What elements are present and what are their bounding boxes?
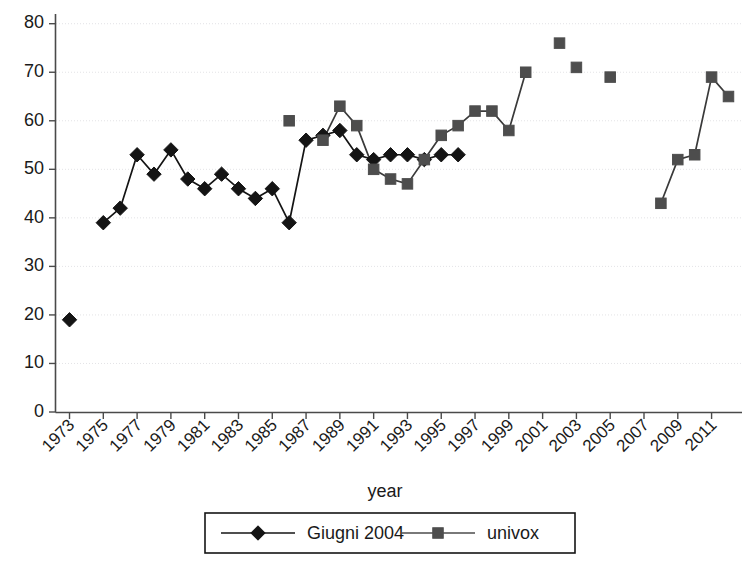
data-point-square	[433, 528, 444, 539]
data-point-square	[656, 198, 667, 209]
x-axis-title: year	[367, 481, 402, 501]
data-point-square	[352, 120, 363, 131]
data-point-square	[520, 67, 531, 78]
data-point-square	[571, 62, 582, 73]
data-point-square	[689, 150, 700, 161]
data-point-square	[402, 179, 413, 190]
legend-label-1: Giugni 2004	[307, 523, 404, 543]
data-point-square	[723, 91, 734, 102]
data-point-square	[385, 174, 396, 185]
data-point-square	[284, 116, 295, 127]
y-tick-label: 80	[24, 12, 44, 32]
data-point-square	[673, 154, 684, 165]
data-point-square	[706, 72, 717, 83]
y-tick-label: 30	[24, 255, 44, 275]
legend-label-2: univox	[487, 523, 539, 543]
line-chart: 01020304050607080 1973197519771979198119…	[0, 0, 752, 568]
data-point-square	[487, 106, 498, 117]
chart-canvas: 01020304050607080 1973197519771979198119…	[0, 0, 752, 568]
y-tick-label: 50	[24, 158, 44, 178]
y-tick-label: 0	[34, 401, 44, 421]
y-tick-label: 40	[24, 207, 44, 227]
data-point-square	[504, 125, 515, 136]
y-tick-label: 60	[24, 110, 44, 130]
data-point-square	[470, 106, 481, 117]
data-point-square	[453, 120, 464, 131]
data-point-square	[554, 38, 565, 49]
data-point-square	[335, 101, 346, 112]
data-point-square	[318, 135, 329, 146]
y-tick-label: 20	[24, 304, 44, 324]
y-tick-label: 10	[24, 352, 44, 372]
data-point-square	[419, 154, 430, 165]
data-point-square	[605, 72, 616, 83]
chart-legend: Giugni 2004univox	[205, 513, 575, 553]
data-point-square	[368, 164, 379, 175]
y-tick-label: 70	[24, 61, 44, 81]
data-point-square	[436, 130, 447, 141]
